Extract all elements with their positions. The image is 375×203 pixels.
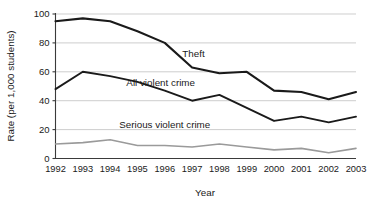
x-tick-label-2002: 2002 bbox=[318, 164, 339, 174]
x-tick-label-1998: 1998 bbox=[209, 164, 230, 174]
x-tick-label-1997: 1997 bbox=[182, 164, 203, 174]
series-line-all-violent-crime bbox=[56, 72, 357, 123]
y-tick-labels: 020406080100 bbox=[34, 8, 50, 164]
x-tick-labels: 1992199319941995199619971998199920002001… bbox=[45, 164, 366, 174]
series-label-serious-violent-crime: Serious violent crime bbox=[119, 119, 210, 130]
y-tick-label-80: 80 bbox=[39, 37, 50, 48]
series-line-theft bbox=[56, 18, 357, 99]
series-label-all-violent-crime: All violent crime bbox=[126, 77, 195, 88]
y-tick-label-60: 60 bbox=[39, 66, 50, 77]
y-tick-label-100: 100 bbox=[34, 8, 50, 19]
series-label-theft: Theft bbox=[182, 48, 205, 59]
y-axis bbox=[53, 13, 56, 159]
x-tick-label-1992: 1992 bbox=[45, 164, 66, 174]
x-tick-label-2000: 2000 bbox=[264, 164, 285, 174]
x-tick-label-1993: 1993 bbox=[72, 164, 93, 174]
line-chart: 020406080100 199219931994199519961997199… bbox=[0, 0, 375, 203]
y-tick-label-0: 0 bbox=[44, 153, 49, 164]
data-series-group bbox=[56, 18, 357, 152]
gridlines bbox=[56, 14, 357, 130]
x-axis-title: Year bbox=[195, 187, 216, 198]
chart-canvas: 020406080100 199219931994199519961997199… bbox=[0, 0, 375, 203]
x-tick-label-1996: 1996 bbox=[154, 164, 175, 174]
series-inline-labels: TheftAll violent crimeSerious violent cr… bbox=[119, 48, 210, 130]
y-tick-label-20: 20 bbox=[39, 124, 50, 135]
series-line-serious-violent-crime bbox=[56, 140, 357, 153]
x-tick-label-1994: 1994 bbox=[100, 164, 121, 174]
x-tick-label-1999: 1999 bbox=[236, 164, 257, 174]
x-tick-label-2001: 2001 bbox=[291, 164, 312, 174]
y-axis-title: Rate (per 1,000 students) bbox=[5, 30, 16, 141]
y-tick-label-40: 40 bbox=[39, 95, 50, 106]
x-tick-label-1995: 1995 bbox=[127, 164, 148, 174]
x-tick-label-2003: 2003 bbox=[346, 164, 367, 174]
